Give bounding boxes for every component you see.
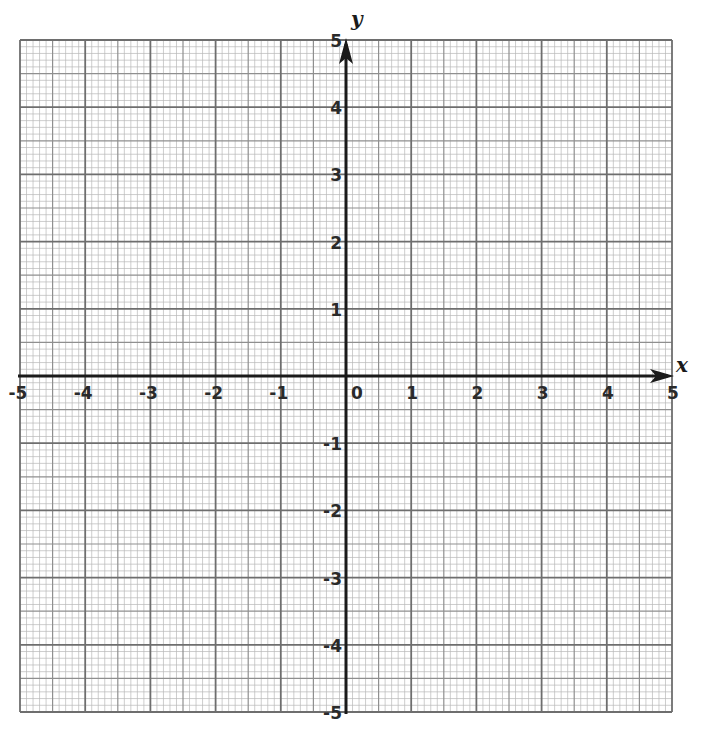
y-tick-label: -1 xyxy=(323,434,342,454)
axes xyxy=(18,38,674,714)
x-tick-label: 3 xyxy=(537,383,549,403)
y-tick-label: 3 xyxy=(330,165,342,185)
x-tick-label: 2 xyxy=(471,383,483,403)
x-tick-label: 5 xyxy=(667,383,679,403)
y-tick-label: -2 xyxy=(323,501,342,521)
coordinate-plane: -5-4-3-2-101234512345-1-2-3-4-5 x y xyxy=(0,0,701,730)
x-tick-label: -3 xyxy=(139,383,158,403)
x-tick-label: 1 xyxy=(406,383,418,403)
y-tick-label: -4 xyxy=(323,636,342,656)
x-axis-name: x xyxy=(675,353,689,377)
x-tick-label: 0 xyxy=(351,383,363,403)
y-tick-label: 2 xyxy=(330,233,342,253)
y-tick-label: 4 xyxy=(330,98,342,118)
x-tick-label: -5 xyxy=(9,383,28,403)
x-tick-label: 4 xyxy=(602,383,614,403)
x-tick-label: -2 xyxy=(204,383,223,403)
y-tick-label: 1 xyxy=(330,300,342,320)
x-tick-label: -4 xyxy=(74,383,93,403)
y-tick-label: 5 xyxy=(330,31,342,51)
x-tick-label: -1 xyxy=(269,383,288,403)
y-axis-name: y xyxy=(350,7,364,31)
y-tick-label: -5 xyxy=(323,703,342,723)
y-tick-label: -3 xyxy=(323,569,342,589)
